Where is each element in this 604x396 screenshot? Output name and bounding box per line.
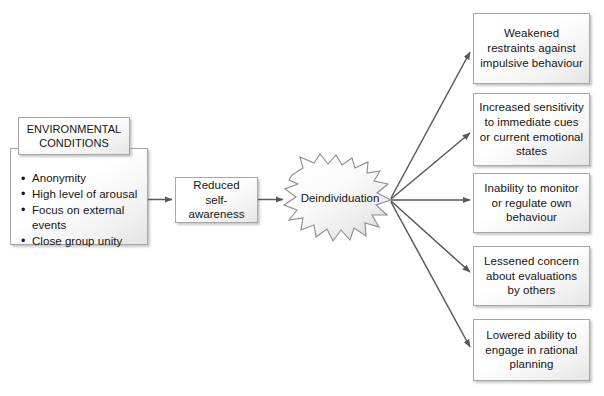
outcome-label: Lowered ability to engage in rational pl… [479,328,584,373]
outcome-label: Weakened restraints against impulsive be… [479,26,584,71]
outcome-box-weakened-restraints: Weakened restraints against impulsive be… [473,13,590,84]
outcome-box-inability-to-monitor: Inability to monitor or regulate own beh… [473,173,590,233]
environmental-conditions-header-label: ENVIRONMENTALCONDITIONS [24,122,124,151]
arrow-central-to-outcome-3 [391,201,470,272]
outcome-box-lowered-ability: Lowered ability to engage in rational pl… [473,319,590,381]
outcome-box-lessened-concern: Lessened concern about evaluations by ot… [473,246,590,306]
deindividuation-label: Deindividuation [283,152,397,244]
reduced-line1: Reduced [193,179,239,191]
outcome-box-increased-sensitivity: Increased sensitivity to immediate cues … [473,93,590,166]
list-item: Close group unity [32,234,143,249]
list-item: Focus on external events [32,203,143,234]
arrow-central-to-outcome-1 [391,133,470,199]
env-header-line2: CONDITIONS [39,137,109,149]
deindividuation-starburst: Deindividuation [283,152,397,244]
outcome-label: Inability to monitor or regulate own beh… [479,181,584,226]
environmental-conditions-list: Anonymity High level of arousal Focus on… [15,171,143,249]
reduced-self-awareness-box: Reducedself-awareness [175,177,258,223]
reduced-self-awareness-label: Reducedself-awareness [181,178,252,223]
arrow-central-to-outcome-0 [391,52,470,198]
outcome-label: Increased sensitivity to immediate cues … [479,100,584,160]
environmental-conditions-header-box: ENVIRONMENTALCONDITIONS [18,117,130,155]
list-item: High level of arousal [32,187,143,202]
environmental-conditions-box: Anonymity High level of arousal Focus on… [10,148,148,245]
arrow-central-to-outcome-4 [391,202,470,347]
outcome-label: Lessened concern about evaluations by ot… [479,254,584,299]
env-header-line1: ENVIRONMENTAL [27,123,122,135]
diagram-canvas: Anonymity High level of arousal Focus on… [0,0,604,396]
list-item: Anonymity [32,171,143,186]
reduced-line2: self-awareness [188,194,244,221]
